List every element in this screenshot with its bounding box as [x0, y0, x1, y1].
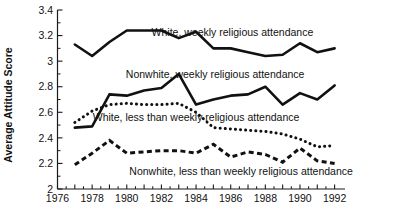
y-tick-label: 2.8	[38, 80, 53, 92]
y-tick-label: 2.4	[38, 132, 53, 144]
x-tick-label: 1980	[115, 192, 139, 204]
x-tick-label: 1992	[323, 192, 347, 204]
series-label-2: White, less than weekly religious attend…	[93, 111, 300, 123]
series-path-3	[75, 140, 335, 164]
line-chart: Average Attitude Score 22.22.42.62.833.2…	[0, 0, 405, 220]
y-tick-label: 2.2	[38, 157, 53, 169]
y-tick-label: 2.6	[38, 106, 53, 118]
series-paths	[75, 30, 335, 164]
x-tick-label: 1988	[254, 192, 278, 204]
x-tick-label: 1976	[46, 192, 70, 204]
series-label-0: White, weekly religious attendance	[152, 26, 314, 38]
x-tick-label: 1984	[184, 192, 208, 204]
series-path-2	[75, 103, 335, 146]
series-label-3: Nonwhite, less than weekly religious att…	[129, 165, 353, 177]
x-axis-ticks: 197619781980198219841986198819901992	[46, 185, 347, 205]
x-tick-label: 1990	[288, 192, 312, 204]
x-tick-label: 1986	[219, 192, 243, 204]
y-tick-label: 3.4	[38, 4, 53, 16]
y-tick-label: 3	[47, 55, 53, 67]
y-tick-label: 3.2	[38, 29, 53, 41]
y-axis-ticks: 22.22.42.62.833.23.4	[38, 4, 62, 195]
chart-container: Average Attitude Score 22.22.42.62.833.2…	[0, 0, 405, 220]
x-tick-label: 1978	[80, 192, 104, 204]
x-tick-label: 1982	[150, 192, 174, 204]
y-axis-title: Average Attitude Score	[2, 47, 14, 162]
series-label-1: Nonwhite, weekly religious attendance	[126, 68, 305, 80]
y-axis-title-group: Average Attitude Score	[2, 47, 14, 162]
